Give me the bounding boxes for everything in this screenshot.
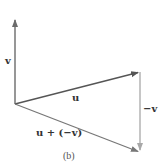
vector-diagram: v u −v u + (−v) (b) xyxy=(0,0,159,164)
label-u: u xyxy=(72,92,79,103)
label-v: v xyxy=(4,55,12,66)
label-u-plus-neg-v: u + (−v) xyxy=(36,127,82,138)
figure-caption: (b) xyxy=(63,150,75,162)
label-neg-v: −v xyxy=(143,103,158,114)
